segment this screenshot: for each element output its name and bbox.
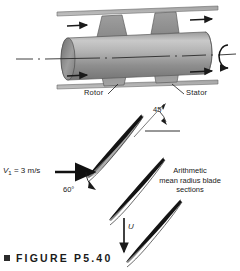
figure-caption-text: FIGURE P5.40 (16, 252, 112, 264)
upper-blade-row (97, 12, 179, 37)
blade-section-note-line-2: mean radius blade (148, 176, 232, 186)
figure-p5-40: Rotor Stator 45° 60° V1 = 3 m/s U Arithm… (0, 0, 240, 271)
flow-arrow-upper-right (190, 19, 212, 20)
angle-60-arrowhead (88, 181, 96, 190)
blade-section-note-line-1: Arithmetic (148, 166, 232, 176)
upper-duct-wall (57, 6, 218, 16)
upper-rotor-blade (97, 15, 127, 37)
turbine-stage-diagram (0, 0, 240, 271)
blade-section-note: Arithmetic mean radius blade sections (148, 166, 232, 195)
inlet-velocity-label: V1 = 3 m/s (3, 166, 40, 176)
blade-section-note-line-3: sections (148, 185, 232, 195)
rotation-arrow-icon (219, 45, 228, 68)
square-bullet-icon (4, 255, 10, 261)
inlet-velocity-value: = 3 m/s (12, 166, 41, 175)
upper-stator-blade (151, 12, 179, 34)
angle-45-label: 45° (153, 105, 164, 114)
blade-speed-label: U (128, 222, 134, 231)
angle-60-label: 60° (63, 185, 74, 194)
stator-label: Stator (186, 88, 207, 97)
rotor-label: Rotor (84, 88, 103, 97)
flow-arrow-upper-left (67, 25, 87, 26)
figure-caption: FIGURE P5.40 (4, 252, 112, 264)
